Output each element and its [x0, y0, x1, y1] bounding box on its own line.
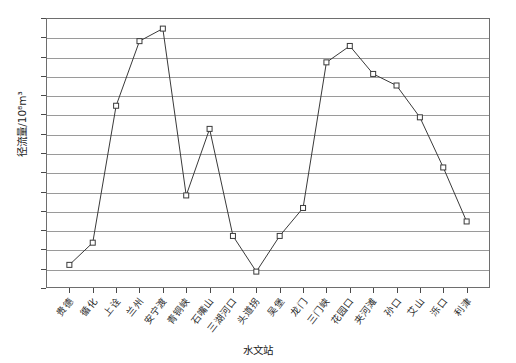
x-tick-mark	[420, 288, 421, 293]
x-tick-label-8: 头道拐	[236, 296, 263, 327]
gridline	[47, 58, 489, 59]
x-tick-mark	[163, 288, 164, 293]
x-tick-label-5: 青铜峡	[166, 296, 193, 327]
plot-area	[46, 18, 490, 288]
x-tick-mark	[69, 288, 70, 293]
x-tick-mark	[350, 288, 351, 293]
x-tick-mark	[233, 288, 234, 293]
x-tick-mark	[443, 288, 444, 293]
gridline	[47, 212, 489, 213]
x-tick-label-12: 花园口	[329, 296, 356, 327]
gridline	[47, 154, 489, 155]
x-tick-mark	[210, 288, 211, 293]
x-tick-mark	[256, 288, 257, 293]
x-axis-title: 水文站	[0, 342, 516, 357]
x-tick-label-4: 安宁渡	[142, 296, 169, 327]
x-tick-label-16: 泺口	[429, 295, 450, 317]
x-tick-mark	[93, 288, 94, 293]
x-tick-mark	[467, 288, 468, 293]
gridline	[47, 270, 489, 271]
x-tick-label-0: 贵德	[55, 295, 76, 317]
x-tick-label-10: 龙门	[289, 295, 310, 317]
gridline	[47, 135, 489, 136]
x-tick-label-9: 吴堡	[266, 295, 287, 317]
x-tick-label-14: 孙口	[382, 295, 403, 317]
y-axis-title: 径流量/10⁸m³	[16, 54, 28, 194]
gridline	[47, 193, 489, 194]
chart-figure: 径流量/10⁸m³ 200210220230240250260270280290…	[0, 0, 516, 363]
x-tick-mark	[397, 288, 398, 293]
x-tick-mark	[116, 288, 117, 293]
x-tick-label-1: 循化	[79, 295, 100, 317]
x-tick-mark	[280, 288, 281, 293]
gridline	[47, 77, 489, 78]
gridline	[47, 96, 489, 97]
x-tick-label-17: 利津	[453, 295, 474, 317]
x-tick-label-13: 夹河滩	[353, 296, 380, 327]
x-tick-mark	[139, 288, 140, 293]
x-tick-mark	[326, 288, 327, 293]
gridline	[47, 250, 489, 251]
y-axis: 径流量/10⁸m³ 200210220230240250260270280290…	[0, 0, 46, 363]
x-tick-mark	[186, 288, 187, 293]
x-tick-label-3: 兰州	[125, 295, 146, 317]
x-tick-mark	[303, 288, 304, 293]
x-tick-label-2: 上诠	[102, 295, 123, 317]
gridline	[47, 38, 489, 39]
x-tick-label-15: 艾山	[406, 295, 427, 317]
x-tick-mark	[373, 288, 374, 293]
y-tick-mark	[41, 288, 46, 289]
gridline	[47, 173, 489, 174]
gridline	[47, 115, 489, 116]
x-tick-label-11: 三门峡	[306, 296, 333, 327]
gridline	[47, 231, 489, 232]
